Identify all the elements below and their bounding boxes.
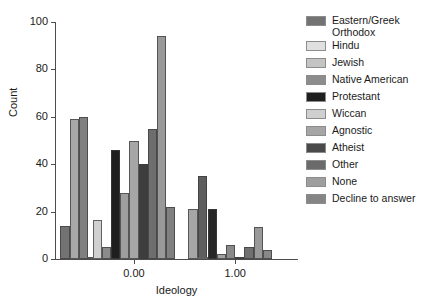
bar xyxy=(217,254,226,259)
bar xyxy=(244,247,253,259)
bar xyxy=(60,226,69,259)
legend-swatch-icon xyxy=(306,160,326,170)
legend-item: Native American xyxy=(306,73,442,89)
y-tick-label: 20 xyxy=(15,206,48,217)
legend-swatch-icon xyxy=(306,194,326,204)
bar xyxy=(208,209,217,259)
bar xyxy=(111,150,120,259)
bar xyxy=(79,117,88,259)
legend-swatch-icon xyxy=(306,143,326,153)
legend-item-label: None xyxy=(332,175,357,187)
legend-swatch-icon xyxy=(306,126,326,136)
legend-swatch-icon xyxy=(306,41,326,51)
y-tick-label: 80 xyxy=(15,63,48,74)
x-axis-line xyxy=(55,259,298,260)
legend-swatch-icon xyxy=(306,177,326,187)
y-tick-label: 40 xyxy=(15,158,48,169)
bar xyxy=(254,227,263,259)
bar xyxy=(139,164,148,259)
legend-item-label: Native American xyxy=(332,73,408,85)
legend-item: None xyxy=(306,175,442,191)
legend-swatch-icon xyxy=(306,92,326,102)
bar xyxy=(188,209,197,259)
x-tick-label: 0.00 xyxy=(104,267,164,279)
bars-layer xyxy=(55,22,298,259)
bar xyxy=(198,176,207,259)
legend-item: Hindu xyxy=(306,39,442,55)
legend-item-label: Wiccan xyxy=(332,107,366,119)
bar xyxy=(129,141,138,260)
legend-swatch-icon xyxy=(306,75,326,85)
x-axis-title: Ideology xyxy=(55,284,298,296)
bar xyxy=(102,247,111,259)
legend-item-label: Atheist xyxy=(332,141,364,153)
x-tick-label: 1.00 xyxy=(205,267,265,279)
legend-swatch-icon xyxy=(306,58,326,68)
y-axis-title: Count xyxy=(7,88,19,117)
bar-chart: 020406080100 0.001.00 Count Ideology Eas… xyxy=(0,0,444,307)
legend-item: Atheist xyxy=(306,141,442,157)
bar xyxy=(166,207,175,259)
bar xyxy=(70,119,79,259)
y-tick-label: 0 xyxy=(15,253,48,264)
bar xyxy=(148,129,157,259)
bar xyxy=(157,36,166,259)
y-tick-label: 100 xyxy=(15,16,48,27)
bar xyxy=(198,257,207,259)
legend-item-label: Jewish xyxy=(332,56,364,68)
legend-swatch-icon xyxy=(306,16,326,26)
legend-item: Jewish xyxy=(306,56,442,72)
legend-item-label: Eastern/Greek Orthodox xyxy=(332,14,400,38)
bar xyxy=(235,257,244,259)
legend-item-label: Protestant xyxy=(332,90,380,102)
legend-item: Wiccan xyxy=(306,107,442,123)
bar xyxy=(263,250,272,259)
x-tick-mark xyxy=(134,259,135,264)
legend-item: Agnostic xyxy=(306,124,442,140)
legend-item-label: Decline to answer xyxy=(332,192,415,204)
legend-item-label: Other xyxy=(332,158,358,170)
y-tick-mark xyxy=(51,259,55,260)
legend-item-label: Agnostic xyxy=(332,124,372,136)
legend-swatch-icon xyxy=(306,109,326,119)
legend-item: Eastern/Greek Orthodox xyxy=(306,14,442,38)
legend-item: Protestant xyxy=(306,90,442,106)
y-tick-label: 60 xyxy=(15,111,48,122)
legend: Eastern/Greek OrthodoxHinduJewishNative … xyxy=(306,14,442,209)
bar xyxy=(93,220,102,259)
plot-area: 020406080100 0.001.00 Count Ideology xyxy=(55,22,298,259)
legend-item: Other xyxy=(306,158,442,174)
legend-item: Decline to answer xyxy=(306,192,442,208)
x-tick-mark xyxy=(235,259,236,264)
bar xyxy=(120,193,129,259)
legend-item-label: Hindu xyxy=(332,39,359,51)
bar xyxy=(226,245,235,259)
